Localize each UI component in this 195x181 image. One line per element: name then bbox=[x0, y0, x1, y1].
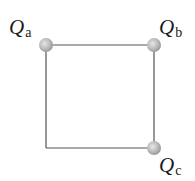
charge-b-symbol: Q bbox=[159, 15, 174, 39]
charge-b-subscript: b bbox=[175, 25, 182, 40]
charge-a-symbol: Q bbox=[9, 15, 24, 39]
charge-c-symbol: Q bbox=[159, 153, 174, 177]
charge-c-label: Qc bbox=[159, 155, 181, 176]
square-outline bbox=[46, 45, 154, 148]
charge-c-subscript: c bbox=[175, 163, 181, 178]
charge-a-label: Qa bbox=[9, 17, 31, 38]
charge-a-subscript: a bbox=[25, 25, 31, 40]
charge-a-dot bbox=[39, 38, 53, 52]
charge-b-label: Qb bbox=[159, 17, 182, 38]
charge-b-dot bbox=[147, 38, 161, 52]
